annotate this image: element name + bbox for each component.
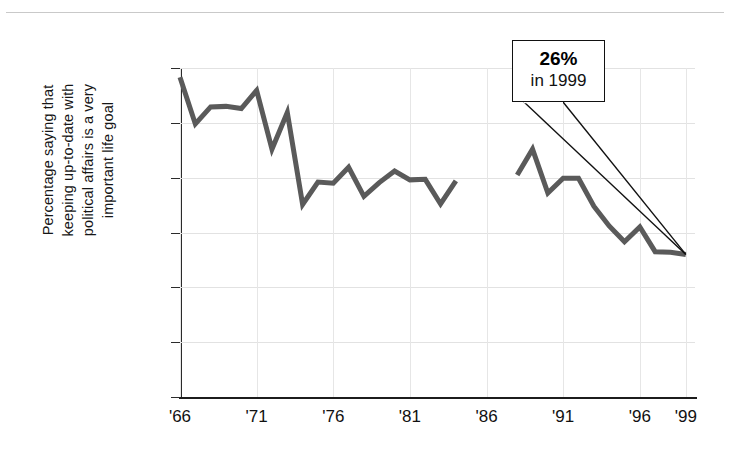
y-tick-mark: [171, 287, 180, 288]
callout-year-label: in 1999: [513, 70, 604, 92]
y-tick-mark: [171, 123, 180, 124]
x-tick-label: '86: [457, 408, 517, 426]
x-tick-label: '99: [656, 408, 716, 426]
x-tick-label: '76: [303, 408, 363, 426]
y-axis-title: Percentage saying that keeping up-to-dat…: [38, 10, 118, 310]
x-tick-label: '66: [150, 408, 210, 426]
y-tick-mark: [171, 397, 180, 398]
y-tick-mark: [171, 342, 180, 343]
y-tick-mark: [171, 233, 180, 234]
y-axis-title-line-2: keeping up-to-date with: [58, 10, 78, 310]
data-line-segment-1: [180, 77, 456, 204]
data-series-lines: [180, 68, 695, 397]
callout-annotation-26-percent: 26% in 1999: [512, 40, 605, 102]
y-tick-mark: [171, 178, 180, 179]
x-axis-line: [179, 397, 697, 399]
x-tick-label: '71: [227, 408, 287, 426]
data-line-segment-2: [517, 149, 686, 254]
callout-value-label: 26%: [513, 48, 604, 70]
x-tick-label: '81: [380, 408, 440, 426]
y-axis-title-line-4: important life goal: [98, 10, 118, 310]
y-axis-title-line-3: political affairs is a very: [78, 10, 98, 310]
line-chart-figure: Percentage saying that keeping up-to-dat…: [0, 0, 730, 454]
y-tick-mark: [171, 68, 180, 69]
x-tick-label: '91: [533, 408, 593, 426]
plot-area: 0102030405060 '66'71'76'81'86'91'96'99: [180, 68, 695, 397]
y-axis-title-line-1: Percentage saying that: [38, 10, 58, 310]
